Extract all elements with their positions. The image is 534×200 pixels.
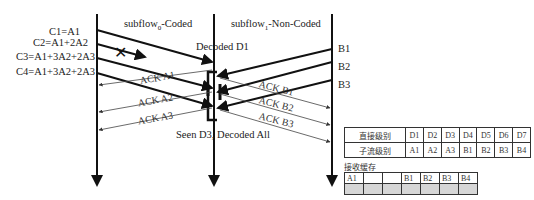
table-cell: D6 bbox=[495, 128, 513, 143]
table-cell: A2 bbox=[423, 143, 441, 158]
coded-packet-label: C1=A1 bbox=[49, 26, 80, 37]
loss-x-icon: ✕ bbox=[114, 43, 127, 62]
table-cell: B2 bbox=[477, 143, 495, 158]
buffer-cell bbox=[459, 184, 478, 195]
table-cell: B4 bbox=[513, 143, 531, 158]
buffer-cell bbox=[421, 184, 440, 195]
row-header: 直接级别 bbox=[345, 128, 406, 143]
coded-packet-label: C3=A1+3A2+2A3 bbox=[16, 51, 95, 62]
decoded-d1-annotation: Decoded D1 bbox=[196, 41, 249, 52]
table-cell: D5 bbox=[477, 128, 495, 143]
uncoded-packet-label: B2 bbox=[338, 61, 350, 72]
buffer-cell bbox=[440, 184, 459, 195]
buffer-slot: B3 bbox=[440, 173, 459, 184]
table-cell: D7 bbox=[513, 128, 531, 143]
table-row: 子流级别 A1 A2 A3 B1 B2 B3 B4 bbox=[345, 143, 531, 158]
subflow1-label: subflow1-Non-Coded bbox=[231, 18, 322, 32]
buffer-slot: A1 bbox=[345, 173, 364, 184]
buffer-cell bbox=[383, 184, 402, 195]
row-header: 子流级别 bbox=[345, 143, 406, 158]
buffer-slot bbox=[383, 173, 402, 184]
table-cell: A3 bbox=[441, 143, 459, 158]
ack-a1-label: ACK A1 bbox=[139, 69, 176, 86]
coded-packet-label: C2=A1+2A2 bbox=[33, 37, 88, 48]
buffer-cell bbox=[364, 184, 383, 195]
table-cell: B1 bbox=[459, 143, 477, 158]
buffer-slot bbox=[364, 173, 383, 184]
receive-buffer: A1 B1 B2 B3 B4 bbox=[344, 172, 478, 195]
buffer-slot: B1 bbox=[402, 173, 421, 184]
table-cell: D2 bbox=[423, 128, 441, 143]
level-table: 直接级别 D1 D2 D3 D4 D5 D6 D7 子流级别 A1 A2 A3 … bbox=[344, 127, 531, 158]
ack-a3-label: ACK A3 bbox=[137, 109, 174, 126]
buffer-slot: B4 bbox=[459, 173, 478, 184]
coded-packet-label: C4=A1+3A2+2A3 bbox=[16, 66, 95, 77]
table-cell: B3 bbox=[495, 143, 513, 158]
buffer-slot: B2 bbox=[421, 173, 440, 184]
uncoded-packet-label: B1 bbox=[338, 43, 350, 54]
table-cell: D3 bbox=[441, 128, 459, 143]
table-row: 直接级别 D1 D2 D3 D4 D5 D6 D7 bbox=[345, 128, 531, 143]
uncoded-packet-label: B3 bbox=[338, 79, 350, 90]
packet-b1-arrow bbox=[218, 49, 332, 76]
buffer-fill-row bbox=[345, 184, 478, 195]
table-cell: D4 bbox=[459, 128, 477, 143]
buffer-cell bbox=[345, 184, 364, 195]
table-cell: A1 bbox=[406, 143, 424, 158]
buffer-label-row: A1 B1 B2 B3 B4 bbox=[345, 173, 478, 184]
ack-a2-label: ACK A2 bbox=[137, 91, 174, 108]
receive-buffer-title: 接收缓存 bbox=[344, 161, 376, 172]
seen-d3-annotation: Seen D3, Decoded All bbox=[176, 129, 270, 140]
table-cell: D1 bbox=[406, 128, 424, 143]
sequence-diagram: subflow0-Coded subflow1-Non-Coded C1=A1 … bbox=[0, 0, 534, 200]
subflow0-label: subflow0-Coded bbox=[124, 18, 193, 32]
buffer-cell bbox=[402, 184, 421, 195]
